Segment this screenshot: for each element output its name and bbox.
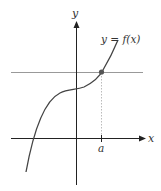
a-label: a bbox=[98, 142, 104, 154]
x-axis-arrow-icon bbox=[139, 136, 146, 142]
x-axis-label: x bbox=[148, 132, 155, 145]
function-graph: y x y = f(x) a bbox=[0, 0, 161, 191]
curve-label: y = f(x) bbox=[100, 33, 140, 45]
intersection-point bbox=[99, 69, 104, 74]
y-axis-arrow-icon bbox=[74, 21, 80, 28]
y-axis-label: y bbox=[71, 7, 79, 20]
